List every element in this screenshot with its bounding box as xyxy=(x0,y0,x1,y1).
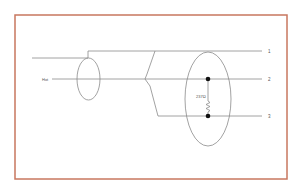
diagram-frame xyxy=(15,15,287,179)
wiring-diagram: Hot 237Ω 1 2 3 xyxy=(0,0,300,187)
junction-dot-2 xyxy=(206,77,211,82)
junction-dot-3 xyxy=(206,114,211,119)
resistance-label: 237Ω xyxy=(196,94,206,99)
hot-label: Hot xyxy=(42,77,49,82)
